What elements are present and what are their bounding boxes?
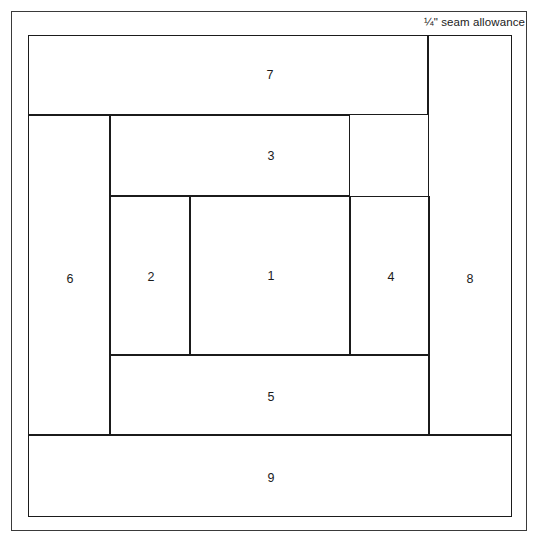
piece-3[interactable]: 3 xyxy=(110,115,350,196)
piece-number-label: 5 xyxy=(268,391,275,404)
piece-number-label: 2 xyxy=(148,271,155,284)
piece-number-label: 3 xyxy=(268,150,275,163)
piece-number-label: 1 xyxy=(268,270,275,283)
seam-allowance-label: ¼" seam allowance xyxy=(424,15,525,29)
piece-number-label: 4 xyxy=(388,271,395,284)
piece-7[interactable]: 7 xyxy=(28,35,428,115)
piece-1[interactable]: 1 xyxy=(190,196,350,355)
piece-number-label: 8 xyxy=(467,273,474,286)
piece-number-label: 7 xyxy=(267,69,274,82)
piece-4[interactable]: 4 xyxy=(350,196,430,355)
piece-9[interactable]: 9 xyxy=(28,435,512,517)
piece-number-label: 9 xyxy=(268,472,275,485)
piece-5[interactable]: 5 xyxy=(110,355,430,435)
piece-2[interactable]: 2 xyxy=(110,196,190,355)
quilt-block-diagram: ¼" seam allowance 123456789 xyxy=(0,0,538,545)
piece-number-label: 6 xyxy=(67,273,74,286)
piece-8[interactable]: 8 xyxy=(428,35,512,435)
piece-6[interactable]: 6 xyxy=(28,115,110,435)
